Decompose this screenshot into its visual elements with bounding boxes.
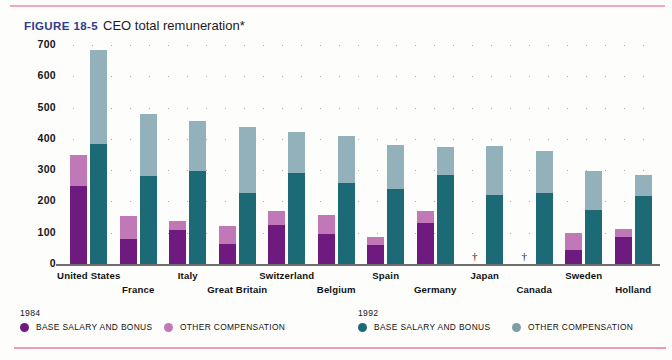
x-axis-label-belgium: Belgium	[317, 284, 356, 295]
x-axis-label-japan: Japan	[471, 270, 499, 281]
page-title: CEO total remuneration*	[103, 18, 245, 33]
bar-segment-1984-base-salary	[565, 250, 582, 264]
bottom-divider-rule	[14, 347, 666, 349]
y-axis-tick-label: 0	[18, 257, 56, 269]
bar-segment-1992-other-compensation	[437, 147, 454, 176]
bar-segment-1984-other-compensation	[615, 229, 632, 238]
bar-1992-germany[interactable]	[437, 147, 454, 264]
bar-segment-1992-base-salary	[486, 195, 503, 264]
bar-segment-1992-base-salary	[635, 196, 652, 264]
bar-segment-1992-base-salary	[239, 193, 256, 264]
legend-swatch-icon	[512, 323, 521, 332]
bar-segment-1992-base-salary	[90, 144, 107, 264]
legend-item-1992-base-salary-and-bonus[interactable]: BASE SALARY AND BONUS	[358, 322, 490, 332]
bar-1992-japan[interactable]	[486, 146, 503, 264]
bar-segment-1984-other-compensation	[318, 215, 335, 235]
bar-1984-switzerland[interactable]	[268, 211, 285, 264]
x-axis-label-united-states: United States	[57, 270, 120, 281]
bar-1984-france[interactable]	[120, 216, 137, 264]
figure-title-bar: FIGURE 18-5CEO total remuneration*	[24, 16, 245, 34]
bar-segment-1992-other-compensation	[338, 136, 355, 182]
legend-year-1984: 1984	[20, 308, 40, 318]
bar-1992-france[interactable]	[140, 114, 157, 264]
bar-segment-1992-base-salary	[288, 173, 305, 264]
bar-1992-sweden[interactable]	[585, 171, 602, 264]
bar-1992-spain[interactable]	[387, 145, 404, 265]
bar-segment-1992-other-compensation	[536, 151, 553, 192]
chart-plot-area: 0100200300400500600700United StatesFranc…	[64, 45, 658, 264]
x-axis-label-great-britain: Great Britain	[207, 284, 267, 295]
y-axis-tick-label: 500	[18, 101, 56, 113]
bar-1992-belgium[interactable]	[338, 136, 355, 264]
y-axis-tick-label: 400	[18, 132, 56, 144]
legend-item-label: BASE SALARY AND BONUS	[36, 322, 152, 332]
bar-segment-1992-other-compensation	[387, 145, 404, 189]
bar-segment-1992-base-salary	[189, 171, 206, 264]
bar-1984-italy[interactable]	[169, 221, 186, 264]
y-axis-tick-label: 700	[18, 38, 56, 50]
missing-data-marker: †	[516, 250, 533, 262]
bar-segment-1992-base-salary	[338, 183, 355, 264]
y-axis-tick-label: 300	[18, 163, 56, 175]
bar-segment-1992-other-compensation	[288, 132, 305, 173]
bar-1984-belgium[interactable]	[318, 215, 335, 264]
legend-item-label: BASE SALARY AND BONUS	[374, 322, 490, 332]
bar-1984-holland[interactable]	[615, 229, 632, 264]
bar-segment-1992-other-compensation	[90, 50, 107, 144]
bar-segment-1984-other-compensation	[268, 211, 285, 225]
bar-1984-spain[interactable]	[367, 237, 384, 264]
bar-1992-great-britain[interactable]	[239, 127, 256, 264]
bar-1984-germany[interactable]	[417, 211, 434, 264]
bar-segment-1984-other-compensation	[120, 216, 137, 239]
bar-segment-1984-other-compensation	[417, 211, 434, 224]
bar-1984-great-britain[interactable]	[219, 226, 236, 264]
bar-segment-1984-other-compensation	[70, 155, 87, 186]
bar-segment-1992-other-compensation	[239, 127, 256, 193]
bar-segment-1992-base-salary	[437, 175, 454, 264]
bar-segment-1992-other-compensation	[635, 175, 652, 196]
gridline	[64, 45, 658, 46]
bar-segment-1992-other-compensation	[585, 171, 602, 210]
bar-segment-1984-base-salary	[318, 234, 335, 264]
figure-container: FIGURE 18-5CEO total remuneration* 01002…	[0, 0, 672, 360]
y-axis-tick-label: 600	[18, 69, 56, 81]
bar-segment-1984-other-compensation	[169, 221, 186, 230]
bar-segment-1984-base-salary	[219, 244, 236, 264]
bar-segment-1984-other-compensation	[367, 237, 384, 244]
legend-item-label: OTHER COMPENSATION	[528, 322, 633, 332]
bar-1984-united-states[interactable]	[70, 155, 87, 264]
x-axis-label-italy: Italy	[178, 270, 198, 281]
gridline	[64, 108, 658, 109]
bar-1992-switzerland[interactable]	[288, 132, 305, 264]
bar-segment-1992-other-compensation	[189, 121, 206, 170]
legend-item-1984-base-salary-and-bonus[interactable]: BASE SALARY AND BONUS	[20, 322, 152, 332]
bar-1992-canada[interactable]	[536, 151, 553, 264]
bar-segment-1984-base-salary	[615, 237, 632, 264]
x-axis-line	[56, 264, 660, 266]
bar-1984-sweden[interactable]	[565, 233, 582, 264]
y-axis-tick-label: 200	[18, 194, 56, 206]
legend-swatch-icon	[358, 323, 367, 332]
top-divider-rule	[10, 5, 665, 7]
bar-segment-1984-base-salary	[367, 245, 384, 264]
bar-1992-holland[interactable]	[635, 175, 652, 264]
bar-segment-1984-base-salary	[70, 186, 87, 264]
bar-segment-1992-base-salary	[140, 176, 157, 264]
legend-swatch-icon	[20, 323, 29, 332]
missing-data-marker: †	[466, 250, 483, 262]
x-axis-label-switzerland: Switzerland	[259, 270, 314, 281]
x-axis-label-germany: Germany	[414, 284, 457, 295]
x-axis-label-spain: Spain	[372, 270, 399, 281]
bar-1992-italy[interactable]	[189, 121, 206, 264]
legend-item-1992-other-compensation[interactable]: OTHER COMPENSATION	[512, 322, 633, 332]
bar-segment-1992-other-compensation	[486, 146, 503, 194]
legend-item-1984-other-compensation[interactable]: OTHER COMPENSATION	[164, 322, 285, 332]
x-axis-label-holland: Holland	[615, 284, 651, 295]
x-axis-label-canada: Canada	[516, 284, 552, 295]
bar-segment-1992-other-compensation	[140, 114, 157, 176]
legend-swatch-icon	[164, 323, 173, 332]
figure-number-label: FIGURE 18-5	[24, 20, 98, 32]
x-axis-label-sweden: Sweden	[565, 270, 602, 281]
bar-1992-united-states[interactable]	[90, 50, 107, 264]
bar-segment-1984-other-compensation	[565, 233, 582, 250]
